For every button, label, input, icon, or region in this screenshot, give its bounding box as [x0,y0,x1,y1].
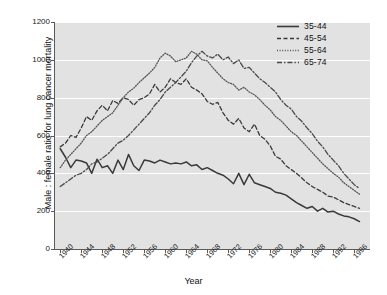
series-line-35-44 [60,149,359,222]
chart-legend: 35-4445-5455-6465-74 [277,20,327,68]
legend-label: 65-74 [304,57,327,67]
y-tick-mark [51,249,54,250]
legend-label: 45-54 [304,33,327,43]
legend-swatch-solid [277,22,299,31]
legend-swatch-dotted [277,46,299,55]
legend-swatch-dashed [277,34,299,43]
legend-swatch-dashdot [277,58,299,67]
legend-item-45-54[interactable]: 45-54 [277,32,327,44]
legend-item-35-44[interactable]: 35-44 [277,20,327,32]
y-axis-line [54,22,55,250]
chart-figure: 120010008006004002000 194019441948195219… [0,0,387,295]
legend-item-65-74[interactable]: 65-74 [277,56,327,68]
x-axis-title: Year [0,276,387,286]
legend-item-55-64[interactable]: 55-64 [277,44,327,56]
series-line-55-64 [60,51,359,194]
series-line-45-54 [60,79,359,209]
legend-label: 55-64 [304,45,327,55]
y-axis-title: Male : female ratio for lung cancer mort… [43,13,53,233]
legend-label: 35-44 [304,21,327,31]
series-line-65-74 [60,51,359,188]
y-axis-title-wrap: Male : female ratio for lung cancer mort… [10,0,24,295]
